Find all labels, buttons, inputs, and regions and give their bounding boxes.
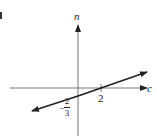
denominator: 3 <box>65 109 70 118</box>
plotted-line-lower <box>32 96 78 111</box>
fraction: 2 3 <box>64 97 70 118</box>
numerator: 2 <box>65 97 70 106</box>
n-axis-label: n <box>74 11 80 22</box>
n-intercept-label: − 2 3 <box>59 97 70 118</box>
plotted-line <box>78 72 147 96</box>
c-axis-label: c <box>147 83 152 94</box>
c-intercept-label: 2 <box>98 93 104 104</box>
